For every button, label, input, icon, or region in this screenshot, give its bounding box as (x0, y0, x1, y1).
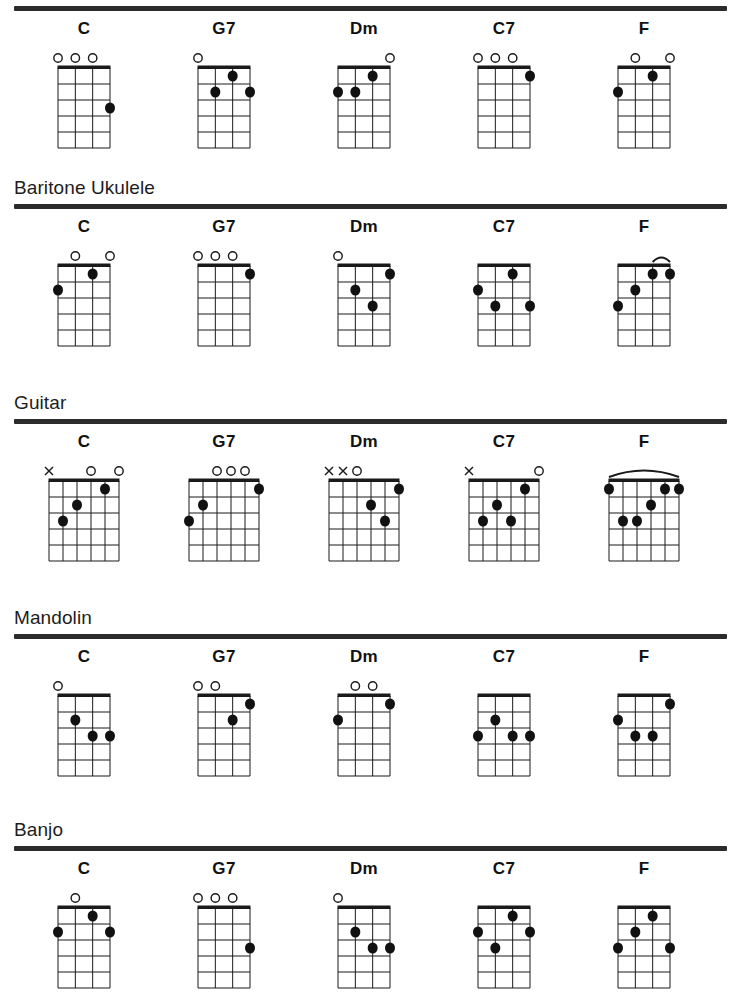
diagram-wrapper (40, 882, 128, 994)
sections-container: CG7DmC7FBaritone UkuleleCG7DmC7FGuitarCG… (0, 0, 739, 997)
diagram-wrapper (180, 882, 268, 994)
instrument-section: CG7DmC7F (0, 0, 739, 154)
chord-cell: Dm (294, 217, 434, 352)
chord-cell: C (14, 647, 154, 782)
finger-dot (105, 730, 115, 741)
instrument-label: Baritone Ukulele (0, 178, 739, 198)
finger-dot (508, 268, 518, 279)
nut (618, 905, 671, 909)
barre-arc (609, 470, 679, 477)
open-string-circle (87, 467, 95, 475)
finger-dot (245, 268, 255, 279)
chord-cell: F (574, 432, 714, 567)
finger-dot (350, 86, 360, 97)
chord-cell: C7 (434, 647, 574, 782)
instrument-label: Mandolin (0, 608, 739, 628)
open-string-circle (631, 54, 639, 62)
nut (198, 693, 251, 697)
chord-diagram (460, 42, 548, 154)
finger-dot (245, 698, 255, 709)
chord-diagram (40, 42, 128, 154)
finger-dot (198, 499, 208, 510)
nut (478, 66, 531, 70)
chord-diagram (600, 670, 688, 782)
open-string-circle (241, 467, 249, 475)
chord-diagram (180, 42, 268, 154)
open-string-circle (194, 682, 202, 690)
chord-name: C7 (493, 647, 515, 667)
chord-name: C (78, 647, 91, 667)
nut (618, 263, 671, 267)
finger-dot (368, 942, 378, 953)
finger-dot (613, 300, 623, 311)
diagram-wrapper (460, 882, 548, 994)
chord-row: CG7DmC7F (0, 851, 739, 994)
finger-dot (478, 515, 488, 526)
chord-diagram (40, 240, 128, 352)
chord-chart-page: CG7DmC7FBaritone UkuleleCG7DmC7FGuitarCG… (0, 0, 739, 997)
chord-name: Dm (350, 859, 378, 879)
finger-dot (366, 499, 376, 510)
diagram-wrapper (591, 455, 697, 567)
open-string-circle (88, 54, 96, 62)
chord-diagram (460, 240, 548, 352)
nut (198, 905, 251, 909)
finger-dot (648, 730, 658, 741)
diagram-wrapper (320, 670, 408, 782)
chord-cell: Dm (294, 19, 434, 154)
chord-cell: G7 (154, 647, 294, 782)
finger-dot (613, 942, 623, 953)
finger-dot (58, 515, 68, 526)
chord-diagram (180, 240, 268, 352)
nut (338, 905, 391, 909)
nut (338, 263, 391, 267)
finger-dot (648, 70, 658, 81)
finger-dot (245, 86, 255, 97)
finger-dot (506, 515, 516, 526)
chord-diagram (180, 670, 268, 782)
diagram-wrapper (180, 42, 268, 154)
barre-arc (653, 257, 670, 262)
finger-dot (473, 926, 483, 937)
chord-diagram (320, 42, 408, 154)
chord-cell: Dm (294, 859, 434, 994)
finger-dot (88, 910, 98, 921)
diagram-wrapper (460, 42, 548, 154)
chord-diagram (180, 882, 268, 994)
chord-row: CG7DmC7F (0, 209, 739, 352)
instrument-label: Banjo (0, 820, 739, 840)
chord-cell: C7 (434, 859, 574, 994)
instrument-label: Guitar (0, 393, 739, 413)
diagram-wrapper (460, 240, 548, 352)
instrument-section: BanjoCG7DmC7F (0, 820, 739, 994)
finger-dot (525, 926, 535, 937)
chord-diagram (451, 455, 557, 567)
chord-name: G7 (212, 217, 235, 237)
finger-dot (385, 942, 395, 953)
instrument-section: GuitarCG7DmC7F (0, 393, 739, 567)
finger-dot (70, 714, 80, 725)
open-string-circle (54, 682, 62, 690)
chord-cell: G7 (154, 217, 294, 352)
chord-diagram (460, 670, 548, 782)
chord-cell: C (14, 432, 154, 567)
finger-dot (228, 714, 238, 725)
chord-diagram (31, 455, 137, 567)
chord-diagram (320, 670, 408, 782)
finger-dot (385, 268, 395, 279)
finger-dot (350, 926, 360, 937)
diagram-wrapper (600, 42, 688, 154)
chord-row: CG7DmC7F (0, 11, 739, 154)
chord-diagram (460, 882, 548, 994)
nut (338, 66, 391, 70)
open-string-circle (211, 682, 219, 690)
finger-dot (648, 268, 658, 279)
open-string-circle (194, 54, 202, 62)
finger-dot (665, 698, 675, 709)
finger-dot (254, 483, 264, 494)
nut (618, 693, 671, 697)
open-string-circle (227, 467, 235, 475)
finger-dot (674, 483, 684, 494)
diagram-wrapper (600, 882, 688, 994)
open-string-circle (115, 467, 123, 475)
